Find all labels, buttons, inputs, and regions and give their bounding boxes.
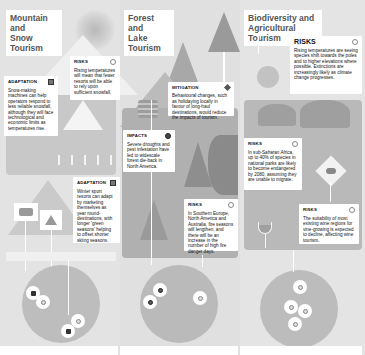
pine-tree-large <box>208 12 240 52</box>
title-connector <box>258 32 259 54</box>
card-text: Behavioural changes, such as holidaying … <box>172 93 230 120</box>
adaptation-icon <box>110 180 116 186</box>
card-text: Winter sport resorts can adapt by market… <box>77 189 116 243</box>
tent-icon <box>45 215 57 225</box>
risk-icon <box>110 59 116 65</box>
risk-icon <box>349 207 355 213</box>
caravan-icon <box>19 208 33 216</box>
column-title-mountain: Mountain and Snow Tourism <box>6 10 62 56</box>
globe-connector <box>293 250 294 272</box>
card-text: Snow-making machines can help operators … <box>8 88 54 131</box>
card-text: In sub-Saharan Africa, up to 40% of spec… <box>248 150 298 182</box>
title-connector <box>138 32 139 46</box>
globe-connector <box>151 100 152 265</box>
map-pin-impact[interactable] <box>143 295 157 309</box>
mitigation-icon <box>224 84 231 91</box>
map-pin-impact[interactable] <box>153 283 167 297</box>
card-heading: RISKS <box>303 207 317 212</box>
footer-strip <box>120 346 238 355</box>
sign-post <box>330 182 331 202</box>
card-heading: MITIGATION <box>172 85 199 90</box>
card-mountain-risks: RISKS Rising temperatures will mean that… <box>70 56 120 100</box>
ground-ledge <box>6 252 116 261</box>
elephant-icon <box>258 104 296 126</box>
card-text: In Southern Europe, North America and Au… <box>188 211 234 254</box>
risk-icon <box>228 202 234 208</box>
card-biodiversity-risks-2: RISKS In sub-Saharan Africa, up to 40% o… <box>244 138 302 190</box>
map-pin-risk[interactable] <box>293 280 307 294</box>
map-pin-risk[interactable] <box>36 295 50 309</box>
map-pin-risk[interactable] <box>193 291 207 305</box>
wine-glass-stem <box>265 234 266 248</box>
sign-post <box>51 230 52 270</box>
elephant-icon <box>300 100 350 128</box>
elephant-icon <box>326 168 336 174</box>
card-text: The suitability of most existing wine re… <box>303 216 355 243</box>
card-heading: RISKS <box>294 39 316 44</box>
caravan-sign <box>14 203 38 221</box>
footer-strip <box>240 346 362 355</box>
map-pin-risk[interactable] <box>288 317 302 331</box>
map-pin-risk[interactable] <box>284 300 298 314</box>
card-biodiversity-risks-1: RISKS Rising temperatures are seeing spe… <box>290 36 362 94</box>
logs-icon <box>138 100 158 118</box>
adaptation-icon <box>48 79 54 85</box>
card-forest-risks: RISKS In Southern Europe, North America … <box>184 199 238 251</box>
footer-strip <box>0 346 118 355</box>
column-title-forest: Forest and Lake Tourism <box>124 10 174 56</box>
card-heading: RISKS <box>248 141 262 146</box>
card-heading: IMPACTS <box>127 133 147 138</box>
map-pin-risk[interactable] <box>298 304 312 318</box>
card-heading: ADAPTATION <box>77 180 106 185</box>
risk-icon <box>292 141 298 147</box>
globe-connector <box>68 260 69 315</box>
tent-sign <box>40 210 62 230</box>
card-heading: ADAPTATION <box>8 79 37 84</box>
globe-connector <box>202 255 203 267</box>
card-mountain-adaptation-2: ADAPTATION Winter sport resorts can adap… <box>73 177 120 243</box>
impact-icon <box>165 133 171 139</box>
map-pin-risk[interactable] <box>71 314 85 328</box>
card-biodiversity-risks-3: RISKS The suitability of most existing w… <box>299 204 359 244</box>
card-text: Rising temperatures are seeing species s… <box>294 48 358 80</box>
card-text: Severe droughts and pest infestation hav… <box>127 142 171 169</box>
sun-circle <box>257 66 279 88</box>
burning-tree <box>140 200 168 240</box>
risk-icon <box>352 39 358 45</box>
card-heading: RISKS <box>74 59 88 64</box>
smoke-shape <box>208 135 238 195</box>
snow-peaks-row <box>58 155 113 165</box>
card-forest-impacts: IMPACTS Severe droughts and pest infesta… <box>123 130 175 172</box>
card-heading: RISKS <box>188 202 202 207</box>
mountain-peak <box>63 100 103 130</box>
sign-post <box>25 221 26 271</box>
card-text: Rising temperatures will mean that fewer… <box>74 68 116 95</box>
card-mountain-adaptation-1: ADAPTATION Snow-making machines can help… <box>4 76 58 136</box>
card-forest-mitigation: MITIGATION Behavioural changes, such as … <box>168 82 234 116</box>
